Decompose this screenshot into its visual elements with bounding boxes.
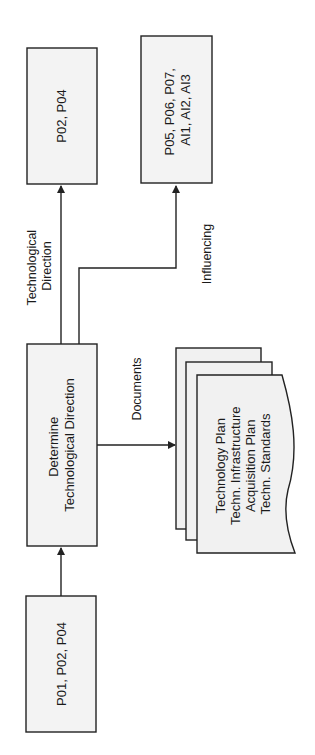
process-box: Determine Technological Direction <box>27 344 97 546</box>
direction-output-box: P02, P04 <box>27 48 97 184</box>
influencing-output-box: P05, P06, P07, AI1, AI2, AI3 <box>141 36 212 183</box>
influencing-output-text: P05, P06, P07, AI1, AI2, AI3 <box>162 64 193 155</box>
documents-text: Technology Plan Techn. Infrastructure Ac… <box>213 403 273 525</box>
arrow-influencing <box>79 186 176 344</box>
process-diagram: P01, P02, P04 Determine Technological Di… <box>0 0 315 755</box>
technological-direction-label: Technological Direction <box>25 226 54 305</box>
inputs-box: P01, P02, P04 <box>26 596 96 732</box>
documents-label: Documents <box>130 357 144 420</box>
document-stack: Technology Plan Techn. Infrastructure Ac… <box>176 348 295 553</box>
influencing-label: Influencing <box>200 224 214 285</box>
direction-output-text: P02, P04 <box>54 89 69 143</box>
inputs-box-text: P01, P02, P04 <box>54 622 69 706</box>
